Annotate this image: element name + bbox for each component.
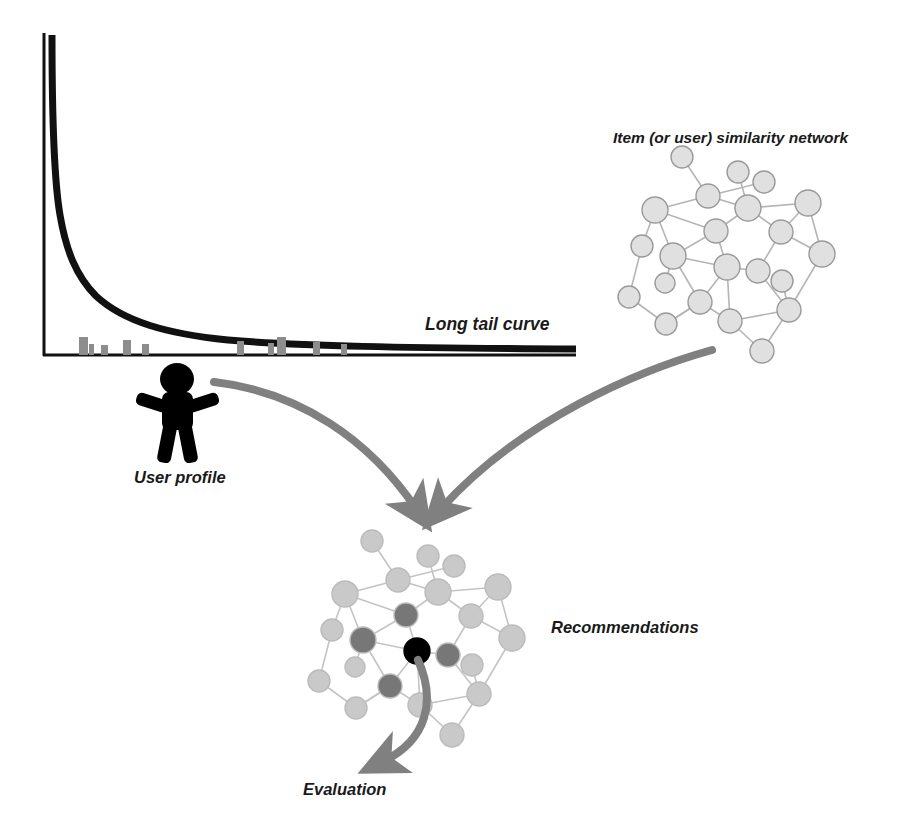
network-node [350,627,376,653]
network-node [461,654,483,676]
network-node [436,643,460,667]
network-node [671,146,693,168]
network-node [345,697,367,719]
long-tail-curve-path [52,35,576,349]
network-node [750,339,774,363]
network-node [714,254,740,280]
network-node [308,670,330,692]
network-node [753,171,775,193]
network-node [655,313,677,335]
evaluation-label: Evaluation [303,780,386,798]
histogram-bar [237,341,244,355]
network-node [459,604,483,628]
network-node [777,298,801,322]
network-node [631,235,653,257]
diagram-canvas: Long tail curve User profile Item (or us… [0,0,905,822]
network-node [660,243,686,269]
recommendation-network-nodes [308,530,525,747]
network-node [771,270,793,292]
network-node [809,241,835,267]
user-profile-label: User profile [134,468,226,486]
user-leg-right [177,422,198,464]
histogram-bar [123,340,131,355]
network-node [618,286,640,308]
network-node [378,674,402,698]
network-node [688,290,712,314]
network-node [718,309,742,333]
network-node [425,579,451,605]
network-node [769,220,793,244]
network-node [704,219,728,243]
network-node [417,545,439,567]
network-node [642,197,668,223]
network-node [440,723,464,747]
network-node [655,273,675,293]
histogram-bar [341,344,347,355]
network-node [321,619,343,641]
histogram-bar [79,337,88,355]
network-node [394,603,418,627]
user-head [160,363,194,395]
similarity-network-label: Item (or user) similarity network [613,129,850,146]
histogram-bar [101,345,108,355]
arrow-similarity-network-to-recommendations [440,350,712,510]
arrow-user-profile-to-recommendations [214,382,417,510]
network-node [735,195,761,221]
network-node [746,259,770,283]
recommendation-network: Recommendations [308,530,699,747]
network-node [443,555,465,577]
histogram-bar [89,344,94,355]
network-node [361,530,383,552]
network-node [345,657,365,677]
network-node [696,184,720,208]
long-tail-curve-label: Long tail curve [425,314,550,334]
recommender-pipeline-figure: Long tail curve User profile Item (or us… [0,0,905,822]
network-node [485,574,511,600]
network-node [795,190,821,216]
similarity-network-nodes [618,146,835,363]
network-node [467,682,491,706]
user-leg-left [156,422,177,464]
similarity-network: Item (or user) similarity network [613,129,850,363]
network-node [727,161,749,183]
network-node [386,568,410,592]
long-tail-chart: Long tail curve [43,33,576,356]
network-node [499,625,525,651]
histogram-bar [142,344,149,355]
histogram-bar [277,337,286,355]
network-node [332,581,358,607]
histogram-bar [268,343,274,355]
histogram-bar [313,342,320,355]
recommendations-label: Recommendations [551,618,699,636]
